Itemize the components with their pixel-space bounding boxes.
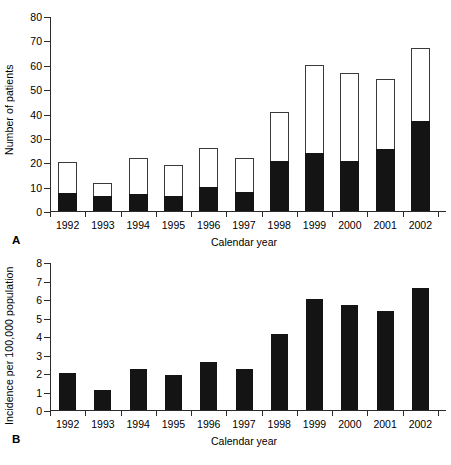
bar	[94, 390, 111, 410]
bar-segment-open	[129, 158, 148, 194]
x-tick-mark	[438, 212, 439, 217]
y-tick-label: 30	[30, 134, 42, 145]
panel-a-y-axis-title: Number of patients	[3, 30, 15, 190]
y-tick-label: 7	[36, 276, 42, 287]
y-tick-label: 0	[36, 207, 42, 218]
stacked-bar	[340, 73, 359, 211]
x-tick-label: 1998	[268, 219, 291, 231]
x-tick-label: 1996	[197, 418, 220, 430]
bar	[412, 288, 429, 410]
x-tick-label: 1992	[56, 219, 79, 231]
x-tick-mark	[191, 212, 192, 217]
bar	[377, 311, 394, 410]
y-tick-label: 6	[36, 295, 42, 306]
x-tick-label: 2002	[409, 418, 432, 430]
x-tick-label: 1994	[126, 418, 149, 430]
x-tick-mark	[50, 212, 51, 217]
bar-segment-open	[270, 112, 289, 161]
bar-segment-open	[199, 148, 218, 187]
panel-a-x-axis-title: Calendar year	[50, 236, 438, 248]
y-tick-label: 4	[36, 332, 42, 343]
x-tick-mark	[297, 212, 298, 217]
stacked-bar	[305, 65, 324, 211]
stacked-bar	[235, 158, 254, 211]
x-tick-label: 1998	[268, 418, 291, 430]
x-tick-mark	[403, 212, 404, 217]
x-tick-label: 1995	[162, 418, 185, 430]
x-tick-label: 1999	[303, 219, 326, 231]
y-tick-label: 10	[30, 182, 42, 193]
panel-a: Number of patients 01020304050607080 199…	[0, 0, 451, 255]
bar-segment-filled	[199, 187, 218, 211]
x-tick-label: 1997	[232, 219, 255, 231]
stacked-bar	[376, 79, 395, 211]
bar-segment-open	[340, 73, 359, 161]
bar-segment-filled	[58, 193, 77, 211]
bar-segment-open	[164, 165, 183, 197]
x-tick-label: 1995	[162, 219, 185, 231]
y-tick-label: 8	[36, 258, 42, 269]
x-tick-label: 2000	[338, 219, 361, 231]
bar-segment-open	[305, 65, 324, 153]
x-tick-label: 1996	[197, 219, 220, 231]
stacked-bar	[270, 112, 289, 211]
y-tick-label: 70	[30, 36, 42, 47]
y-tick-label: 2	[36, 369, 42, 380]
x-tick-mark	[156, 411, 157, 416]
x-tick-mark	[226, 411, 227, 416]
bar-segment-open	[411, 48, 430, 121]
x-tick-mark	[85, 212, 86, 217]
bar-segment-filled	[411, 121, 430, 211]
x-tick-label: 1997	[232, 418, 255, 430]
x-tick-label: 1994	[126, 219, 149, 231]
bar-segment-filled	[235, 192, 254, 212]
y-tick-label: 0	[36, 406, 42, 417]
x-tick-mark	[121, 411, 122, 416]
y-tick-label: 5	[36, 313, 42, 324]
y-tick-label: 60	[30, 61, 42, 72]
x-tick-label: 1999	[303, 418, 326, 430]
panel-b-plot-area: 012345678	[50, 263, 438, 411]
bar	[200, 362, 217, 410]
x-tick-mark	[226, 212, 227, 217]
panel-a-plot-area: 01020304050607080	[50, 17, 438, 212]
x-tick-mark	[191, 411, 192, 416]
panel-b-x-axis-title: Calendar year	[50, 435, 438, 447]
x-tick-mark	[262, 411, 263, 416]
panel-a-bar-group	[50, 17, 438, 211]
x-tick-mark	[332, 411, 333, 416]
x-tick-label: 2000	[338, 418, 361, 430]
panel-b: Incidence per 100,000 population 0123456…	[0, 255, 451, 465]
bar-segment-open	[376, 79, 395, 148]
x-tick-mark	[297, 411, 298, 416]
stacked-bar	[58, 162, 77, 211]
panel-b-x-axis-line	[50, 410, 446, 411]
bar	[341, 305, 358, 410]
bar-segment-filled	[129, 194, 148, 211]
y-tick-label: 80	[30, 12, 42, 23]
x-tick-mark	[85, 411, 86, 416]
bar	[165, 375, 182, 410]
bar-segment-filled	[305, 153, 324, 211]
bar-segment-open	[235, 158, 254, 191]
x-tick-mark	[156, 212, 157, 217]
bar-segment-filled	[93, 196, 112, 211]
bar	[59, 373, 76, 410]
stacked-bar	[164, 165, 183, 211]
x-tick-label: 2002	[409, 219, 432, 231]
x-tick-mark	[262, 212, 263, 217]
x-tick-label: 2001	[373, 219, 396, 231]
x-tick-mark	[403, 411, 404, 416]
stacked-bar	[93, 183, 112, 211]
stacked-bar	[199, 148, 218, 211]
bar-segment-open	[58, 162, 77, 193]
x-tick-mark	[332, 212, 333, 217]
x-tick-mark	[121, 212, 122, 217]
bar	[130, 369, 147, 410]
x-tick-label: 1993	[91, 219, 114, 231]
bar-segment-filled	[376, 149, 395, 211]
x-tick-mark	[50, 411, 51, 416]
panel-b-letter: B	[12, 433, 20, 445]
stacked-bar	[129, 158, 148, 211]
y-tick-label: 3	[36, 350, 42, 361]
